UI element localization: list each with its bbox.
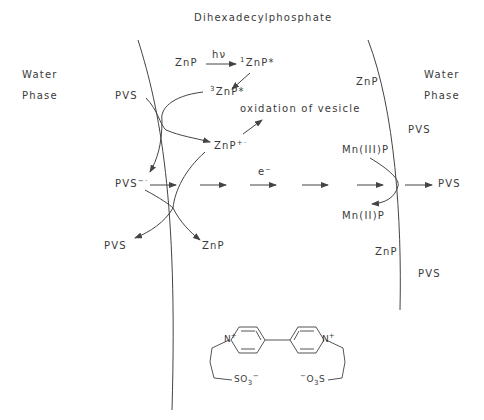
left-phase-label-line1: Water xyxy=(22,69,58,80)
right-phase-label-line2: Phase xyxy=(424,90,460,101)
hv-label: hν xyxy=(212,49,226,60)
o3s-right-label: −O3S xyxy=(300,374,325,384)
electron-label: e⁻ xyxy=(258,166,272,177)
left-phase-label-line2: Phase xyxy=(22,90,58,101)
znp-cation-label: ZnP+· xyxy=(214,140,247,151)
left-membrane-boundary xyxy=(138,40,173,410)
znp-right-bottom-label: ZnP xyxy=(375,246,398,257)
znp-right-top-label: ZnP xyxy=(356,76,379,87)
so3-left-label: SO3− xyxy=(234,374,259,384)
singlet-znp-label: 1ZnP* xyxy=(240,57,275,68)
n-plus-left-label: N+ xyxy=(224,334,237,344)
pvs-bottom-left-label: PVS xyxy=(104,240,127,251)
oxidation-label: oxidation of vesicle xyxy=(240,103,361,114)
triplet-znp-label: 3ZnP* xyxy=(210,86,245,97)
pvs-right-out-label: PVS xyxy=(438,178,461,189)
znp-bottom-label: ZnP xyxy=(202,240,225,251)
mn3-label: Mn(III)P xyxy=(342,144,389,155)
pvs-radical-label: PVS−· xyxy=(115,178,148,189)
znp-ground-label: ZnP xyxy=(175,57,198,68)
pvs-right-bottom-label: PVS xyxy=(418,268,441,279)
mn2-label: Mn(II)P xyxy=(342,210,385,221)
title-label: Dihexadecylphosphate xyxy=(194,12,332,23)
right-phase-label-line1: Water xyxy=(424,69,460,80)
pvs-left-top-label: PVS xyxy=(115,90,138,101)
n-plus-right-label: N+ xyxy=(322,334,335,344)
pvs-right-top-label: PVS xyxy=(408,124,431,135)
